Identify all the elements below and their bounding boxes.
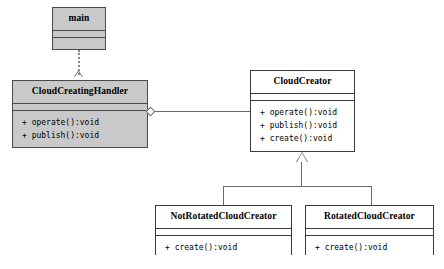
class-operations-rotated-cloud-creator: + create():void (306, 236, 433, 259)
generalization-drop-line-left (223, 186, 224, 205)
class-title-main: main (53, 8, 105, 31)
operation-row: + create():void (156, 241, 291, 254)
class-box-cloud-creating-handler[interactable]: CloudCreatingHandler + operate():void + … (12, 80, 148, 148)
operation-row: + operate():void (13, 116, 147, 129)
generalization-crossbar-line (223, 186, 372, 187)
class-operations-cloud-creating-handler: + operate():void + publish():void (13, 111, 147, 148)
class-operations-cloud-creator: + operate():void + publish():void + crea… (251, 101, 354, 152)
class-title-rotated-cloud-creator: RotatedCloudCreator (306, 206, 433, 229)
class-attributes-rotated-cloud-creator (306, 229, 433, 236)
class-box-not-rotated-cloud-creator[interactable]: NotRotatedCloudCreator + create():void (155, 205, 292, 255)
class-operations-main (53, 38, 105, 50)
aggregation-line-handler-to-creator (155, 111, 250, 112)
class-attributes-cloud-creating-handler (13, 104, 147, 111)
operation-row: + operate():void (251, 106, 354, 119)
generalization-triangle-fill-icon (297, 153, 307, 162)
operation-row: + publish():void (13, 129, 147, 142)
generalization-stem-line (301, 162, 302, 186)
class-operations-not-rotated-cloud-creator: + create():void (156, 236, 291, 259)
class-box-rotated-cloud-creator[interactable]: RotatedCloudCreator + create():void (305, 205, 434, 255)
operation-row: + create():void (306, 241, 433, 254)
operation-row: + publish():void (251, 119, 354, 132)
class-attributes-not-rotated-cloud-creator (156, 229, 291, 236)
class-title-not-rotated-cloud-creator: NotRotatedCloudCreator (156, 206, 291, 229)
class-attributes-cloud-creator (251, 94, 354, 101)
class-attributes-main (53, 31, 105, 38)
generalization-drop-line-right (371, 186, 372, 205)
uml-diagram-canvas: main CloudCreatingHandler + operate():vo… (0, 0, 444, 269)
class-box-cloud-creator[interactable]: CloudCreator + operate():void + publish(… (250, 70, 355, 152)
class-title-cloud-creator: CloudCreator (251, 71, 354, 94)
class-box-main[interactable]: main (52, 7, 106, 50)
class-title-cloud-creating-handler: CloudCreatingHandler (13, 81, 147, 104)
operation-row: + create():void (251, 132, 354, 145)
